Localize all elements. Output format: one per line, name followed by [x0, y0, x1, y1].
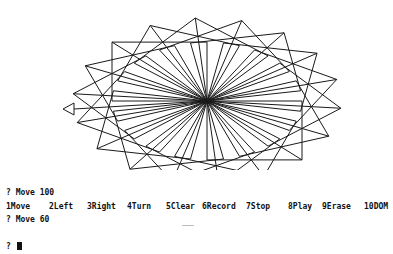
fkey-erase[interactable]: 9Erase: [322, 202, 351, 211]
rotated-squares-figure: [73, 18, 341, 170]
fkey-label: Record: [207, 202, 236, 211]
fkey-right[interactable]: 3Right: [87, 202, 116, 211]
fkey-label: DOM: [374, 202, 388, 211]
fkey-label: Right: [92, 202, 116, 211]
fkey-label: Play: [293, 202, 312, 211]
prompt-text: ?: [6, 242, 16, 251]
fkey-left[interactable]: 2Left: [49, 202, 73, 211]
fkey-label: Erase: [327, 202, 351, 211]
fkey-label: Stop: [251, 202, 270, 211]
fkey-stop[interactable]: 7Stop: [246, 202, 270, 211]
fkey-num: 10: [364, 202, 374, 211]
page-mark: [182, 225, 194, 226]
fkey-turn[interactable]: 4Turn: [127, 202, 151, 211]
fkey-clear[interactable]: 5Clear: [166, 202, 195, 211]
fkey-move[interactable]: 1Move: [6, 202, 30, 211]
fkey-label: Move: [11, 202, 30, 211]
console-line-1: ? Move 100: [6, 188, 54, 197]
console-prompt[interactable]: ?: [6, 242, 54, 251]
text-cursor: [17, 242, 22, 250]
function-key-bar: 1Move 2Left 3Right 4Turn 5Clear 6Record …: [6, 202, 393, 212]
fkey-label: Left: [54, 202, 73, 211]
fkey-label: Clear: [171, 202, 195, 211]
fkey-play[interactable]: 8Play: [288, 202, 312, 211]
command-console[interactable]: ? Move 100 ? Move 60 ?: [6, 170, 54, 254]
console-line-2: ? Move 60: [6, 215, 54, 224]
fkey-record[interactable]: 6Record: [202, 202, 236, 211]
fkey-dom[interactable]: 10DOM: [364, 202, 388, 211]
turtle-graphics-canvas: [0, 0, 393, 170]
fkey-label: Turn: [132, 202, 151, 211]
